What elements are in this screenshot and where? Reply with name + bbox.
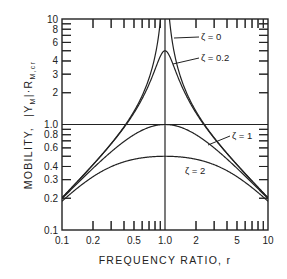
x-tick-label: 0.5 [127, 235, 141, 246]
y-axis-title-mid: |·R [22, 80, 34, 98]
y-tick-label: 4 [52, 55, 58, 66]
y-tick-label: 6 [52, 37, 58, 48]
y-tick-label: 0.2 [44, 193, 58, 204]
y-tick-labels: 0.10.20.30.40.60.81.02346810 [44, 14, 58, 236]
curve-label: ζ = 1 [232, 130, 252, 141]
curve-label: ζ = 2 [185, 165, 205, 176]
y-axis-title-text: MOBILITY, |YM|·RM,cr [22, 61, 36, 190]
curve-annotations: ζ = 0ζ = 0.2ζ = 1ζ = 2 [185, 31, 252, 176]
y-tick-label: 1.0 [44, 119, 58, 130]
curve-zeta-0-branch [62, 0, 164, 198]
x-tick-label: 2 [193, 235, 199, 246]
x-tick-labels: 0.10.20.51.02510 [55, 235, 274, 246]
y-tick-label: 0.6 [44, 142, 58, 153]
y-tick-label: 0.1 [44, 225, 58, 236]
x-tick-label: 0.2 [86, 235, 100, 246]
x-axis-title: FREQUENCY RATIO, r [99, 254, 232, 266]
y-axis-title: MOBILITY, |YM|·RM,cr [22, 61, 36, 190]
y-tick-label: 0.3 [44, 174, 58, 185]
x-tick-label: 10 [262, 235, 274, 246]
y-axis-title-main: MOBILITY, [22, 127, 34, 189]
y-tick-label: 3 [52, 69, 58, 80]
y-tick-label: 8 [52, 24, 58, 35]
y-axis-title-sub1: M [29, 97, 36, 104]
annotation-leader [174, 37, 199, 38]
curve-zeta-0-branch [166, 0, 268, 198]
y-tick-label: 0.8 [44, 129, 58, 140]
y-tick-label: 0.4 [44, 161, 58, 172]
x-tick-label: 1.0 [158, 235, 172, 246]
x-tick-label: 0.1 [55, 235, 69, 246]
curve-label: ζ = 0.2 [201, 52, 229, 63]
y-tick-label: 10 [47, 14, 59, 25]
x-tick-label: 5 [234, 235, 240, 246]
y-axis-title-sub2: M,cr [29, 61, 36, 80]
y-axis-title-symbol: |Y [22, 104, 34, 116]
mobility-chart: 0.10.20.51.02510 0.10.20.30.40.60.81.023… [0, 0, 287, 279]
curve-label: ζ = 0 [201, 31, 221, 42]
annotation-leader [173, 58, 199, 64]
y-tick-label: 2 [52, 87, 58, 98]
